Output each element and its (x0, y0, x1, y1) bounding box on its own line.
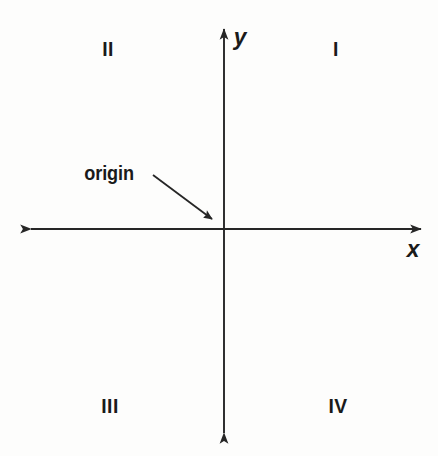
quadrant-label-1: I (333, 38, 339, 59)
y-axis-label: y (234, 25, 247, 49)
quadrant-label-2: II (102, 38, 114, 59)
origin-pointer-arrow (153, 175, 212, 219)
origin-label: origin (84, 164, 134, 184)
coordinate-plane-figure: y x I II III IV origin (0, 0, 438, 456)
coordinate-plane-canvas (0, 0, 438, 456)
x-axis-label: x (407, 237, 420, 261)
quadrant-label-4: IV (328, 395, 347, 416)
origin-callout-group (153, 175, 212, 219)
quadrant-label-3: III (101, 395, 118, 416)
